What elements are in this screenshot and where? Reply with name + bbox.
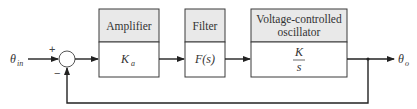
vco-title-line2: oscillator: [278, 26, 321, 38]
input-symbol: θ: [10, 52, 16, 66]
minus-sign: −: [54, 67, 60, 79]
output-symbol: θ: [398, 52, 404, 66]
vco-denominator: s: [297, 60, 302, 74]
filter-title: Filter: [193, 20, 218, 32]
output-label: θ o: [398, 52, 409, 68]
amplifier-gain: K: [120, 52, 130, 66]
amplifier-title: Amplifier: [106, 20, 152, 33]
output-subscript: o: [405, 59, 409, 68]
input-subscript: in: [17, 59, 23, 68]
diagram-svg: θ in + − Amplifier K a Filter F(s): [0, 0, 417, 109]
vco-title-line1: Voltage-controlled: [256, 13, 342, 26]
amplifier-gain-subscript: a: [131, 59, 135, 68]
vco-numerator: K: [294, 45, 304, 59]
filter-transfer-function: F(s): [194, 52, 215, 66]
vco-block: Voltage-controlled oscillator K s: [251, 9, 347, 77]
input-label: θ in: [10, 52, 23, 68]
filter-block: Filter F(s): [185, 9, 225, 77]
plus-sign: +: [49, 43, 55, 55]
summing-junction: [59, 51, 75, 67]
block-diagram: θ in + − Amplifier K a Filter F(s): [0, 0, 417, 109]
amplifier-block: Amplifier K a: [99, 9, 159, 77]
